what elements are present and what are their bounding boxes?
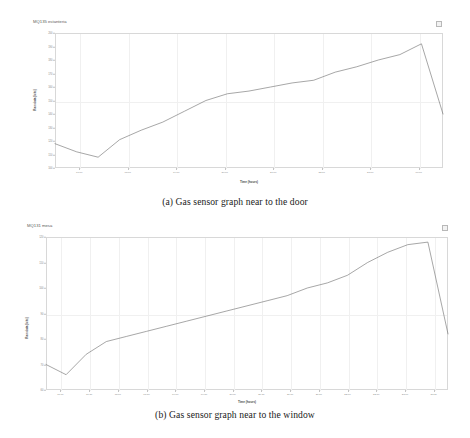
x-tick-label: 19:00	[172, 393, 178, 396]
y-tick-mark	[44, 339, 46, 340]
x-tick-mark	[233, 390, 234, 392]
x-tick-label: 22:00	[344, 393, 350, 396]
y-tick-label: 80	[34, 338, 44, 341]
x-tick-mark	[118, 390, 119, 392]
x-tick-mark	[405, 390, 406, 392]
x-tick-mark	[434, 390, 435, 392]
y-tick-label: 100	[34, 287, 44, 290]
x-tick-label: 23:00	[367, 171, 373, 174]
x-tick-label: 20:00	[222, 171, 228, 174]
chart-card-a: MQ135 estanteria Time (hours) Raw data (…	[0, 0, 470, 195]
x-tick-label: 18:00	[115, 393, 121, 396]
y-tick-mark	[44, 288, 46, 289]
y-tick-mark	[53, 154, 55, 155]
y-tick-label: 180	[43, 59, 53, 62]
y-tick-label: 110	[43, 153, 53, 156]
y-tick-label: 100	[43, 167, 53, 170]
y-tick-label: 60	[34, 389, 44, 392]
x-tick-label: 18:30	[143, 393, 149, 396]
y-tick-mark	[44, 237, 46, 238]
y-tick-label: 160	[43, 86, 53, 89]
y-axis-title-b: Raw data (bits)	[25, 317, 29, 338]
x-tick-label: 18:00	[125, 171, 131, 174]
x-tick-mark	[322, 168, 323, 170]
x-tick-mark	[376, 390, 377, 392]
data-series-line	[55, 44, 443, 157]
x-tick-mark	[89, 390, 90, 392]
x-tick-mark	[261, 390, 262, 392]
x-tick-mark	[147, 390, 148, 392]
x-tick-label: 22:00	[319, 171, 325, 174]
x-tick-label: 19:00	[173, 171, 179, 174]
x-tick-label: 20:30	[258, 393, 264, 396]
y-tick-mark	[44, 390, 46, 391]
x-tick-label: 23:00	[402, 393, 408, 396]
y-tick-mark	[53, 127, 55, 128]
x-axis-title-b: Time (hours)	[238, 400, 256, 404]
x-tick-mark	[273, 168, 274, 170]
x-tick-label: 17:00	[76, 171, 82, 174]
caption-b: (b) Gas sensor graph near to the window	[0, 409, 470, 420]
x-tick-mark	[60, 390, 61, 392]
x-tick-mark	[225, 168, 226, 170]
y-tick-label: 190	[43, 45, 53, 48]
y-tick-label: 120	[43, 140, 53, 143]
y-tick-label: 70	[34, 363, 44, 366]
y-tick-mark	[53, 73, 55, 74]
y-tick-label: 120	[34, 236, 44, 239]
caption-a: (a) Gas sensor graph near to the door	[0, 196, 470, 207]
y-tick-label: 110	[34, 261, 44, 264]
y-tick-mark	[53, 33, 55, 34]
x-tick-label: 21:00	[270, 171, 276, 174]
y-tick-mark	[53, 60, 55, 61]
x-axis-title-a: Time (hours)	[240, 180, 258, 184]
x-tick-label: 23:30	[431, 393, 437, 396]
x-tick-mark	[370, 168, 371, 170]
x-tick-mark	[419, 168, 420, 170]
y-tick-label: 140	[43, 113, 53, 116]
y-axis-title-a: Raw data (bits)	[33, 89, 37, 110]
figure-page: MQ135 estanteria Time (hours) Raw data (…	[0, 0, 470, 438]
x-tick-mark	[204, 390, 205, 392]
y-tick-mark	[53, 141, 55, 142]
y-tick-mark	[53, 100, 55, 101]
x-tick-mark	[348, 390, 349, 392]
y-tick-mark	[44, 262, 46, 263]
y-tick-mark	[53, 168, 55, 169]
chart-b-canvas	[0, 218, 470, 408]
x-tick-label: 17:30	[86, 393, 92, 396]
x-tick-mark	[79, 168, 80, 170]
x-tick-mark	[176, 168, 177, 170]
x-tick-mark	[175, 390, 176, 392]
y-tick-label: 170	[43, 72, 53, 75]
x-tick-mark	[319, 390, 320, 392]
y-tick-mark	[53, 87, 55, 88]
x-tick-mark	[290, 390, 291, 392]
x-tick-label: 20:00	[230, 393, 236, 396]
x-tick-label: 21:30	[316, 393, 322, 396]
y-tick-label: 200	[43, 32, 53, 35]
y-tick-mark	[53, 114, 55, 115]
y-tick-label: 150	[43, 99, 53, 102]
x-tick-label: 21:00	[287, 393, 293, 396]
x-tick-label: 00:00	[416, 171, 422, 174]
x-tick-label: 17:00	[57, 393, 63, 396]
chart-a-canvas	[0, 0, 470, 195]
y-tick-label: 90	[34, 312, 44, 315]
y-tick-label: 130	[43, 126, 53, 129]
x-tick-label: 22:30	[373, 393, 379, 396]
data-series-line	[46, 242, 448, 375]
chart-card-b: MQ131 mesa Time (hours) Raw data (bits) …	[0, 218, 470, 408]
x-tick-label: 19:30	[201, 393, 207, 396]
x-tick-mark	[128, 168, 129, 170]
y-tick-mark	[53, 46, 55, 47]
y-tick-mark	[44, 313, 46, 314]
y-tick-mark	[44, 364, 46, 365]
